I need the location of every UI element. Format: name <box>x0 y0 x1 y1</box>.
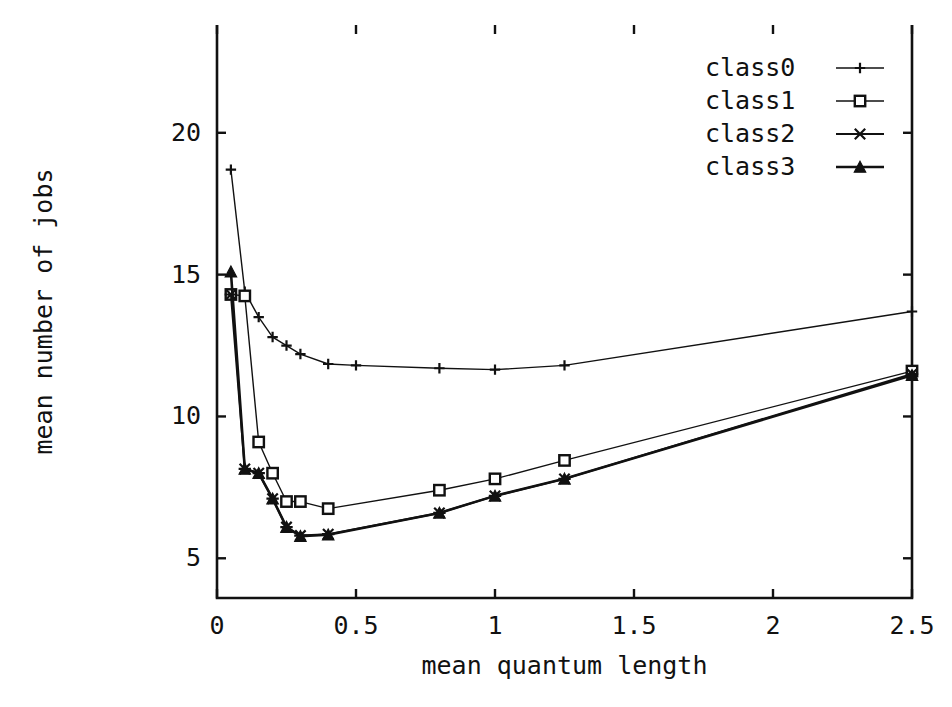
marker-square <box>281 496 291 506</box>
y-tick-label: 15 <box>171 260 201 289</box>
legend: class0class1class2class3 <box>705 53 884 181</box>
marker-square <box>254 437 264 447</box>
chart-figure: 510152000.511.522.5 class0class1class2cl… <box>0 0 952 707</box>
x-axis-title: mean quantum length <box>422 651 708 680</box>
y-tick-label: 10 <box>171 401 201 430</box>
marker-plus <box>281 340 291 350</box>
marker-plus <box>226 164 236 174</box>
axis-ticks <box>217 25 912 598</box>
plot-border <box>217 25 912 598</box>
x-tick-label: 2 <box>765 611 780 640</box>
plot-canvas: 510152000.511.522.5 class0class1class2cl… <box>0 0 952 707</box>
marker-square <box>434 485 444 495</box>
marker-star <box>854 129 866 139</box>
marker-plus <box>351 360 361 370</box>
marker-plus <box>434 363 444 373</box>
y-axis-title: mean number of jobs <box>29 169 58 455</box>
marker-square <box>240 291 250 301</box>
data-series-group <box>225 164 919 541</box>
marker-plus <box>254 312 264 322</box>
series-class3 <box>225 266 918 541</box>
marker-plus <box>267 332 277 342</box>
marker-triangle <box>225 266 236 277</box>
marker-plus <box>559 360 569 370</box>
series-class0 <box>226 164 918 374</box>
series-class1 <box>226 289 918 514</box>
x-tick-label: 2.5 <box>889 611 934 640</box>
marker-square <box>323 503 333 513</box>
axis-titles: mean quantum lengthmean number of jobs <box>29 169 707 680</box>
series-line <box>231 294 912 535</box>
legend-label-class2: class2 <box>705 119 795 148</box>
plot-frame <box>217 25 912 598</box>
marker-plus <box>490 364 500 374</box>
marker-square <box>559 455 569 465</box>
x-tick-label: 1.5 <box>611 611 656 640</box>
legend-label-class3: class3 <box>705 152 795 181</box>
marker-square <box>855 96 865 106</box>
x-tick-label: 1 <box>487 611 502 640</box>
marker-square <box>267 468 277 478</box>
marker-square <box>490 474 500 484</box>
marker-plus <box>907 306 917 316</box>
y-tick-label: 20 <box>171 118 201 147</box>
marker-plus <box>323 359 333 369</box>
marker-plus <box>855 63 865 73</box>
legend-label-class1: class1 <box>705 86 795 115</box>
axis-tick-labels: 510152000.511.522.5 <box>171 118 935 640</box>
series-line <box>231 170 912 370</box>
marker-square <box>295 496 305 506</box>
x-tick-label: 0.5 <box>333 611 378 640</box>
legend-label-class0: class0 <box>705 53 795 82</box>
y-tick-label: 5 <box>186 543 201 572</box>
marker-plus <box>295 349 305 359</box>
x-tick-label: 0 <box>209 611 224 640</box>
